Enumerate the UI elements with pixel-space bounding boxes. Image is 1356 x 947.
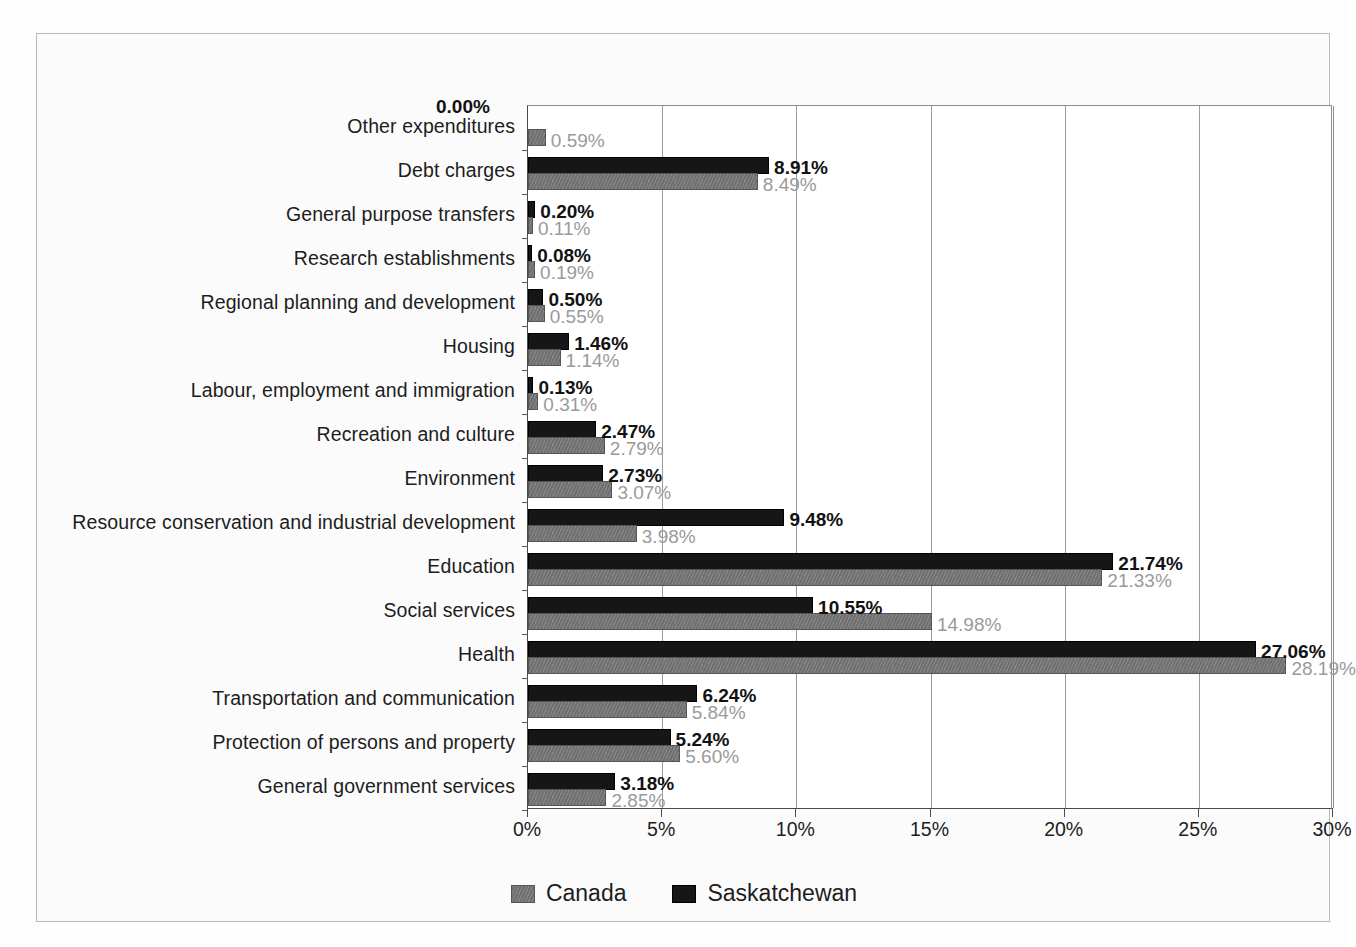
x-axis-tick-labels: 0%5%10%15%20%25%30% [527, 818, 1332, 848]
bar-canada[interactable] [528, 349, 561, 366]
category-label: Environment [404, 467, 515, 490]
value-label-canada: 0.55% [550, 307, 604, 326]
value-label-canada: 0.19% [540, 263, 594, 282]
category-label: Resource conservation and industrial dev… [72, 511, 515, 534]
bar-canada[interactable] [528, 789, 606, 806]
canada-swatch-icon [511, 885, 535, 903]
bar-canada[interactable] [528, 657, 1286, 674]
bar-saskatchewan[interactable] [528, 421, 596, 438]
value-label-canada: 0.59% [551, 131, 605, 150]
y-axis-tick [522, 546, 528, 547]
bar-canada[interactable] [528, 261, 535, 278]
bar-saskatchewan[interactable] [528, 201, 535, 218]
gridline-15 [931, 106, 932, 808]
value-label-canada: 28.19% [1291, 659, 1355, 678]
category-label: Protection of persons and property [212, 731, 515, 754]
chart-legend: Canada Saskatchewan [37, 880, 1331, 907]
value-label-canada: 3.07% [617, 483, 671, 502]
bar-canada[interactable] [528, 481, 612, 498]
bar-canada[interactable] [528, 305, 545, 322]
bar-saskatchewan[interactable] [528, 245, 532, 262]
bar-saskatchewan[interactable] [528, 333, 569, 350]
x-axis-tick-mark [527, 808, 528, 817]
bar-saskatchewan[interactable] [528, 289, 543, 306]
bar-canada[interactable] [528, 217, 533, 234]
x-axis-tick-mark [1332, 808, 1333, 817]
category-label: Education [427, 555, 515, 578]
gridline-30 [1333, 106, 1334, 808]
bar-saskatchewan[interactable] [528, 597, 813, 614]
category-label: Housing [443, 335, 515, 358]
legend-label-canada: Canada [546, 880, 627, 907]
saskatchewan-swatch-icon [672, 885, 696, 903]
x-axis-tick-mark [1064, 808, 1065, 817]
legend-item-canada[interactable]: Canada [511, 880, 627, 907]
value-label-canada: 0.31% [543, 395, 597, 414]
value-label-canada: 5.84% [692, 703, 746, 722]
bar-canada[interactable] [528, 173, 758, 190]
x-axis-tick-mark [1198, 808, 1199, 817]
y-axis-tick [522, 678, 528, 679]
bar-canada[interactable] [528, 525, 637, 542]
value-label-canada: 2.79% [610, 439, 664, 458]
bar-saskatchewan[interactable] [528, 641, 1256, 658]
y-axis-tick [522, 502, 528, 503]
bar-saskatchewan[interactable] [528, 465, 603, 482]
y-axis-tick [522, 282, 528, 283]
category-label: Social services [383, 599, 515, 622]
chart-figure-frame: 0.00%0.59%8.91%8.49%0.20%0.11%0.08%0.19%… [36, 33, 1330, 922]
bar-saskatchewan[interactable] [528, 685, 697, 702]
category-label: General government services [258, 775, 515, 798]
bar-canada[interactable] [528, 437, 605, 454]
bar-saskatchewan[interactable] [528, 509, 784, 526]
y-axis-tick [522, 370, 528, 371]
category-label: Labour, employment and immigration [191, 379, 515, 402]
category-label: Research establishments [294, 247, 515, 270]
x-axis-tick-label: 25% [1178, 818, 1217, 841]
bar-canada[interactable] [528, 701, 687, 718]
bar-canada[interactable] [528, 569, 1102, 586]
y-axis-tick [522, 590, 528, 591]
value-label-canada: 8.49% [763, 175, 817, 194]
value-label-canada: 1.14% [566, 351, 620, 370]
y-axis-tick [522, 194, 528, 195]
value-label-saskatchewan: 9.48% [789, 510, 843, 529]
y-axis-tick [522, 722, 528, 723]
x-axis-tick-label: 15% [910, 818, 949, 841]
legend-item-saskatchewan[interactable]: Saskatchewan [672, 880, 857, 907]
value-label-canada: 14.98% [937, 615, 1001, 634]
bar-canada[interactable] [528, 129, 546, 146]
gridline-10 [796, 106, 797, 808]
bar-saskatchewan[interactable] [528, 729, 671, 746]
bar-saskatchewan[interactable] [528, 157, 769, 174]
x-axis-tick-label: 5% [647, 818, 675, 841]
value-label-canada: 21.33% [1107, 571, 1171, 590]
value-label-canada: 0.11% [538, 219, 590, 238]
category-label: Debt charges [398, 159, 515, 182]
y-axis-tick [522, 238, 528, 239]
bar-saskatchewan[interactable] [528, 377, 533, 394]
bar-canada[interactable] [528, 393, 538, 410]
value-label-canada: 2.85% [611, 791, 665, 810]
value-label-saskatchewan: 10.55% [818, 598, 882, 617]
x-axis-tick-mark [930, 808, 931, 817]
bar-saskatchewan[interactable] [528, 773, 615, 790]
y-axis-tick [522, 458, 528, 459]
y-axis-tick [522, 634, 528, 635]
value-label-canada: 5.60% [685, 747, 739, 766]
y-axis-tick [522, 414, 528, 415]
category-label: Regional planning and development [201, 291, 515, 314]
category-label: General purpose transfers [286, 203, 515, 226]
legend-label-saskatchewan: Saskatchewan [707, 880, 857, 907]
x-axis-tick-label: 20% [1044, 818, 1083, 841]
plot-area: 0.00%0.59%8.91%8.49%0.20%0.11%0.08%0.19%… [527, 105, 1332, 809]
y-axis-tick [522, 326, 528, 327]
category-label: Health [458, 643, 515, 666]
value-label-canada: 3.98% [642, 527, 696, 546]
x-axis-tick-mark [795, 808, 796, 817]
category-label: Recreation and culture [317, 423, 515, 446]
category-label: Other expenditures [347, 115, 515, 138]
bar-saskatchewan[interactable] [528, 553, 1113, 570]
bar-canada[interactable] [528, 745, 680, 762]
